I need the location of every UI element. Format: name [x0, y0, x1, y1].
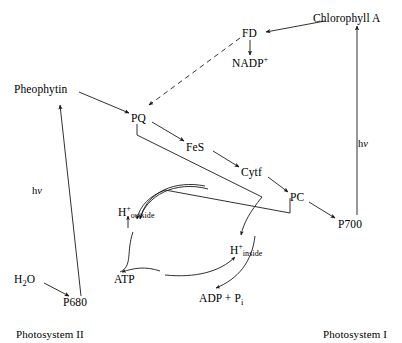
- nu-glyph-left: v: [37, 185, 42, 196]
- node-adp-pi: ADP + Pi: [199, 293, 243, 305]
- edge-pq-to-h-inside: [137, 124, 262, 197]
- edge-cytf-to-pc: [268, 177, 288, 192]
- node-chlorophyll-a: Chlorophyll A: [313, 13, 380, 25]
- h-outside-subscript: outside: [131, 211, 155, 220]
- edge-pq-to-h-inside-tail: [241, 197, 262, 235]
- photon-label-right: hv: [358, 139, 368, 150]
- caption-photosystem-2: Photosystem II: [16, 329, 84, 340]
- edge-pc-to-h-inside: [165, 190, 290, 213]
- edge-fd-to-pq-cyclic: [149, 38, 240, 105]
- nadp-charge: +: [264, 55, 268, 64]
- node-p680: P680: [63, 297, 87, 309]
- h-inside-subscript: inside: [243, 249, 263, 258]
- edge-pheophytin-to-pq: [79, 92, 129, 113]
- node-cytf: Cytf: [241, 167, 262, 179]
- node-p700: P700: [338, 219, 362, 231]
- photon-label-left: hv: [32, 186, 42, 197]
- edge-h-outside-to-atp: [120, 232, 133, 272]
- water-subscript: 2: [22, 278, 26, 288]
- node-h-outside: H+outside: [118, 207, 155, 219]
- edge-pq-to-fes: [152, 122, 184, 141]
- node-atp: ATP: [114, 274, 135, 286]
- edge-pc-to-p700: [309, 202, 335, 218]
- node-fes: FeS: [186, 142, 204, 154]
- node-pheophytin: Pheophytin: [14, 84, 67, 96]
- node-pq: PQ: [131, 113, 146, 125]
- edge-p680-to-pheophytin: [60, 105, 81, 296]
- node-water: H2O: [14, 274, 35, 286]
- nu-glyph-right: v: [363, 138, 368, 149]
- edge-water-to-p680: [44, 283, 69, 296]
- node-h-inside: H+inside: [230, 245, 262, 257]
- edge-h-outside-to-atp-head: [122, 268, 160, 272]
- edge-adp-to-h-inside: [165, 257, 235, 276]
- node-fd: FD: [242, 28, 257, 40]
- photosynthesis-diagram: Pheophytin PQ FeS Cytf PC P700 P680 H2O …: [0, 0, 402, 343]
- caption-photosystem-1: Photosystem I: [323, 329, 387, 340]
- node-nadp: NADP+: [232, 58, 268, 70]
- node-pc: PC: [290, 192, 304, 204]
- edge-fes-to-cytf: [213, 151, 239, 167]
